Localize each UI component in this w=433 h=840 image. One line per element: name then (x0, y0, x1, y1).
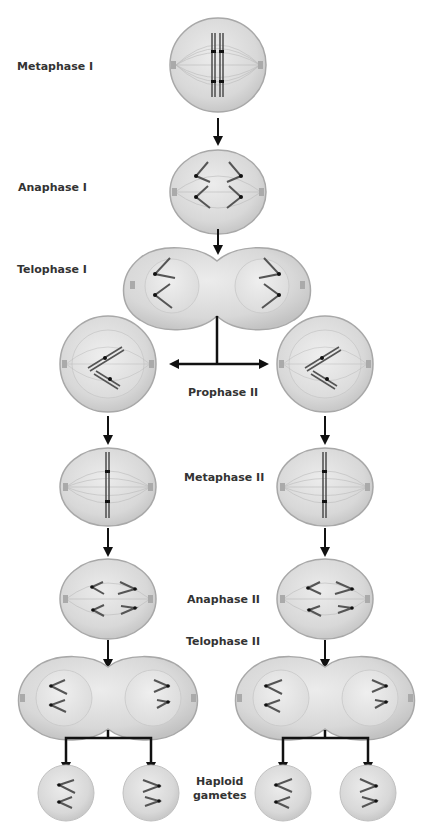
gamete-1 (38, 765, 94, 821)
gamete-2 (123, 765, 179, 821)
meiosis-diagram (0, 0, 433, 840)
cell-anaphase-2-right (277, 559, 373, 639)
gamete-4 (340, 765, 396, 821)
centrosome-icon (171, 61, 176, 69)
cell-telophase-2-right (236, 657, 415, 740)
cell-prophase-2-right (277, 316, 373, 412)
gamete-3 (255, 765, 311, 821)
centrosome-icon (258, 61, 263, 69)
cell-telophase-2-left (19, 657, 198, 740)
cell-prophase-2-left (60, 316, 156, 412)
cell-anaphase-2-left (60, 559, 156, 639)
cell-metaphase-1 (170, 18, 266, 112)
cell-metaphase-2-left (60, 448, 156, 526)
cell-anaphase-1 (170, 150, 266, 234)
cell-metaphase-2-right (277, 448, 373, 526)
